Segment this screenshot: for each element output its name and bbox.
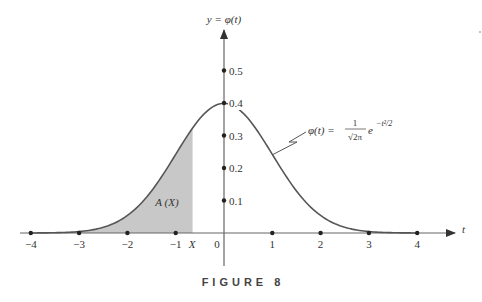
x-tick-label: 2 xyxy=(318,238,324,250)
formula-numerator: 1 xyxy=(353,118,358,128)
y-tick-label: 0.4 xyxy=(229,97,243,109)
y-tick-dot xyxy=(222,198,226,202)
y-tick-dot xyxy=(222,133,226,137)
y-tick-label: 0.2 xyxy=(229,162,243,174)
x-tick-label: −2 xyxy=(122,238,134,250)
y-tick-dot xyxy=(222,101,226,105)
formula-exp-base: e xyxy=(368,124,373,136)
x-tick-label: 3 xyxy=(366,238,372,250)
x-tick-label: −1 xyxy=(170,238,182,250)
y-tick-label: 0.5 xyxy=(229,65,243,77)
x-tick-dot xyxy=(318,231,322,235)
x-tick-dot xyxy=(77,231,81,235)
figure-caption: FIGURE 8 xyxy=(202,276,285,288)
x-tick-dot xyxy=(174,231,178,235)
y-tick-label: 0.1 xyxy=(229,195,243,207)
x-tick-dot xyxy=(29,231,33,235)
scan-artifact-dot xyxy=(479,31,481,33)
y-axis-ticks: 0.10.20.30.40.5 xyxy=(222,65,243,207)
normal-distribution-figure: −4−3−2−101234 0.10.20.30.40.5 y = φ(t) t… xyxy=(0,0,482,302)
leader-line xyxy=(272,132,306,155)
formula-denominator: √2π xyxy=(348,132,362,142)
y-axis-label: y = φ(t) xyxy=(206,13,242,26)
shaded-area-a-x xyxy=(31,128,193,233)
x-tick-label: 1 xyxy=(270,238,276,250)
formula-lhs: φ(t) = xyxy=(308,124,335,137)
x-tick-label: −4 xyxy=(25,238,37,250)
x-tick-dot xyxy=(125,231,129,235)
x-axis-ticks: −4−3−2−101234 xyxy=(25,231,421,250)
x-tick-dot xyxy=(270,231,274,235)
formula-exponent: −t²/2 xyxy=(376,119,392,128)
curve-formula: φ(t) = 1 √2π e −t²/2 xyxy=(272,118,392,155)
area-label: A (X) xyxy=(154,196,179,209)
x-tick-label: −3 xyxy=(73,238,85,250)
x-tick-dot xyxy=(367,231,371,235)
x-tick-label: 4 xyxy=(414,238,420,250)
y-tick-dot xyxy=(222,166,226,170)
x-axis-label: t xyxy=(462,223,466,235)
x-marker-label: X xyxy=(188,238,197,250)
y-tick-label: 0.3 xyxy=(229,130,243,142)
x-tick-dot xyxy=(415,231,419,235)
y-tick-dot xyxy=(222,68,226,72)
x-tick-label: 0 xyxy=(214,238,220,250)
